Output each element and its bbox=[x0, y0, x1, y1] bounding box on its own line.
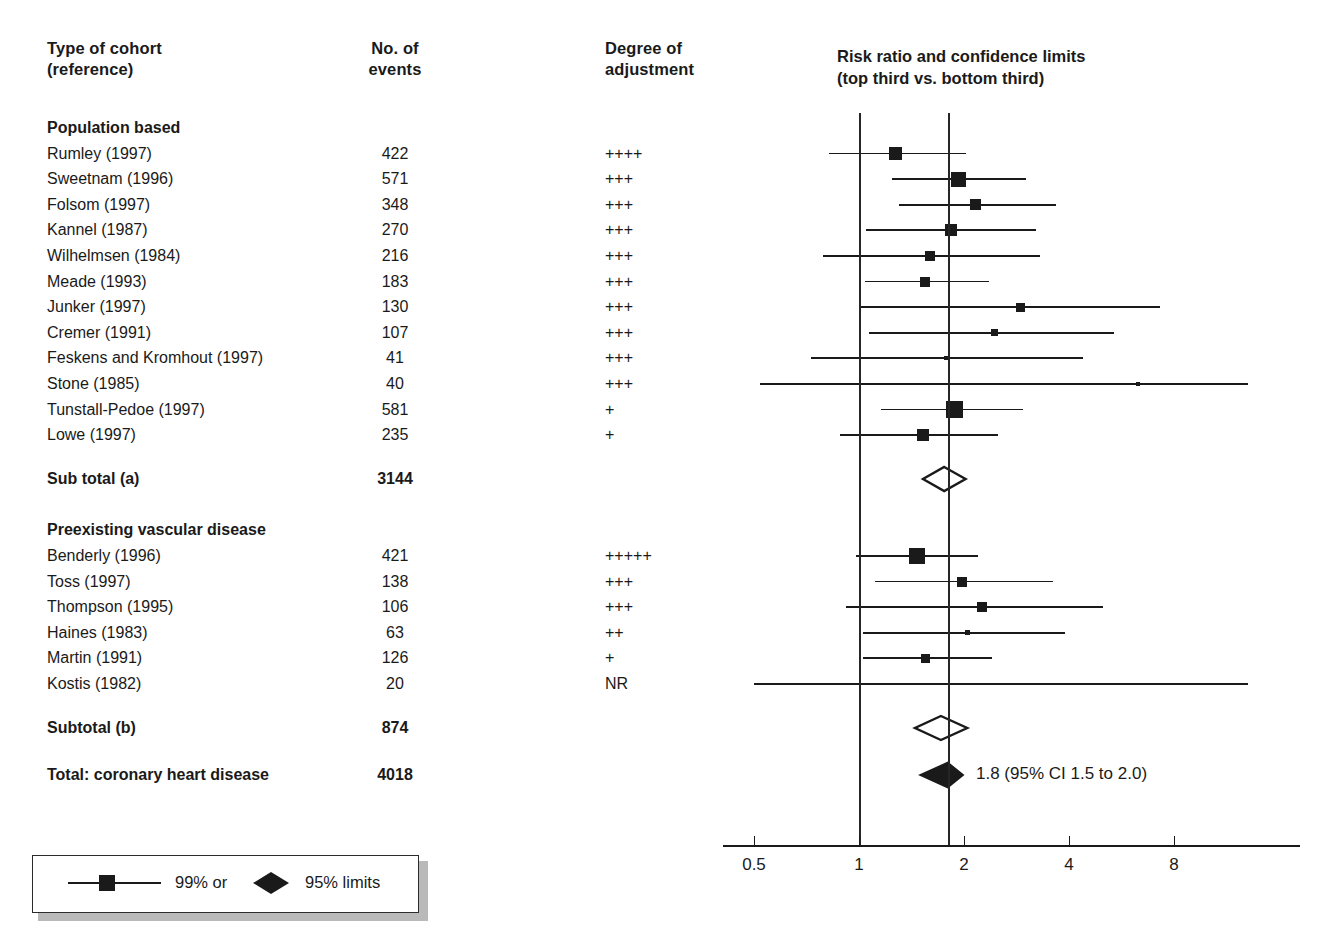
cohort-header-line2: (reference) bbox=[47, 59, 377, 80]
confidence-interval-line bbox=[846, 606, 1102, 608]
x-axis-tick bbox=[859, 836, 860, 845]
point-estimate-marker bbox=[951, 172, 966, 187]
point-estimate-marker bbox=[977, 602, 987, 612]
plot-area: Risk ratio and confidence limits (top th… bbox=[700, 0, 1317, 939]
x-axis-tick bbox=[754, 836, 755, 845]
row-events-value: 571 bbox=[330, 169, 460, 188]
confidence-interval-line bbox=[859, 306, 1160, 308]
legend-diamond-icon bbox=[251, 870, 291, 896]
row-cohort-label: Preexisting vascular disease bbox=[47, 520, 377, 539]
total-diamond bbox=[920, 762, 964, 788]
row-cohort-label: Subtotal (b) bbox=[47, 718, 377, 737]
row-cohort-label: Stone (1985) bbox=[47, 374, 377, 393]
row-cohort-label: Junker (1997) bbox=[47, 297, 377, 316]
row-events-value: 183 bbox=[330, 272, 460, 291]
row-events-value: 106 bbox=[330, 597, 460, 616]
events-header-line2: events bbox=[330, 59, 460, 80]
summary-diamond-b bbox=[914, 715, 968, 741]
row-events-value: 235 bbox=[330, 425, 460, 444]
point-estimate-marker bbox=[965, 630, 970, 635]
row-events-value: 130 bbox=[330, 297, 460, 316]
legend-box: 99% or 95% limits bbox=[32, 855, 419, 913]
row-cohort-label: Sub total (a) bbox=[47, 469, 377, 488]
row-cohort-label: Sweetnam (1996) bbox=[47, 169, 377, 188]
x-axis-tick-label: 4 bbox=[1039, 855, 1099, 875]
point-estimate-marker bbox=[921, 654, 930, 663]
confidence-interval-line bbox=[754, 683, 1248, 685]
plot-title-line1: Risk ratio and confidence limits bbox=[837, 45, 1085, 67]
x-axis-tick-label: 2 bbox=[934, 855, 994, 875]
legend-square-marker bbox=[99, 875, 115, 891]
row-events-value: 270 bbox=[330, 220, 460, 239]
plot-title-line2: (top third vs. bottom third) bbox=[837, 67, 1085, 89]
column-header-cohort: Type of cohort (reference) bbox=[47, 38, 377, 80]
point-estimate-marker bbox=[1016, 303, 1025, 312]
point-estimate-marker bbox=[920, 277, 930, 287]
total-annotation: 1.8 (95% CI 1.5 to 2.0) bbox=[976, 764, 1147, 784]
row-events-value: 40 bbox=[330, 374, 460, 393]
summary-diamond-a bbox=[922, 466, 967, 492]
row-cohort-label: Benderly (1996) bbox=[47, 546, 377, 565]
row-cohort-label: Lowe (1997) bbox=[47, 425, 377, 444]
row-cohort-label: Martin (1991) bbox=[47, 648, 377, 667]
point-estimate-marker bbox=[925, 251, 935, 261]
row-events-value: 138 bbox=[330, 572, 460, 591]
row-events-value: 126 bbox=[330, 648, 460, 667]
row-events-value: 63 bbox=[330, 623, 460, 642]
row-events-value: 421 bbox=[330, 546, 460, 565]
x-axis-tick bbox=[1069, 836, 1070, 845]
row-events-value: 422 bbox=[330, 144, 460, 163]
point-estimate-marker bbox=[957, 577, 967, 587]
row-cohort-label: Kannel (1987) bbox=[47, 220, 377, 239]
column-header-events: No. of events bbox=[330, 38, 460, 80]
row-events-value: 3144 bbox=[330, 469, 460, 488]
row-cohort-label: Population based bbox=[47, 118, 377, 137]
row-cohort-label: Wilhelmsen (1984) bbox=[47, 246, 377, 265]
x-axis-tick-label: 0.5 bbox=[724, 855, 784, 875]
x-axis-tick-label: 8 bbox=[1144, 855, 1204, 875]
row-cohort-label: Rumley (1997) bbox=[47, 144, 377, 163]
row-cohort-label: Meade (1993) bbox=[47, 272, 377, 291]
events-header-line1: No. of bbox=[330, 38, 460, 59]
row-cohort-label: Feskens and Kromhout (1997) bbox=[47, 348, 377, 367]
reference-line-null bbox=[859, 113, 861, 845]
forest-plot-figure: Type of cohort (reference) No. of events… bbox=[0, 0, 1317, 939]
row-events-value: 348 bbox=[330, 195, 460, 214]
row-events-value: 20 bbox=[330, 674, 460, 693]
row-cohort-label: Kostis (1982) bbox=[47, 674, 377, 693]
point-estimate-marker bbox=[1136, 382, 1140, 386]
row-cohort-label: Toss (1997) bbox=[47, 572, 377, 591]
row-events-value: 4018 bbox=[330, 765, 460, 784]
confidence-interval-line bbox=[760, 383, 1248, 385]
point-estimate-marker bbox=[970, 199, 981, 210]
study-table: Type of cohort (reference) No. of events… bbox=[0, 0, 720, 939]
row-cohort-label: Folsom (1997) bbox=[47, 195, 377, 214]
point-estimate-marker bbox=[909, 548, 925, 564]
legend-label-99: 99% or bbox=[175, 873, 227, 892]
row-events-value: 874 bbox=[330, 718, 460, 737]
row-cohort-label: Thompson (1995) bbox=[47, 597, 377, 616]
point-estimate-marker bbox=[945, 224, 957, 236]
x-axis-tick-label: 1 bbox=[829, 855, 889, 875]
x-axis-tick bbox=[1174, 836, 1175, 845]
row-cohort-label: Cremer (1991) bbox=[47, 323, 377, 342]
pooled-effect-line bbox=[948, 113, 950, 845]
x-axis-tick bbox=[964, 836, 965, 845]
row-cohort-label: Haines (1983) bbox=[47, 623, 377, 642]
row-cohort-label: Tunstall-Pedoe (1997) bbox=[47, 400, 377, 419]
x-axis-line bbox=[723, 845, 1300, 847]
point-estimate-marker bbox=[889, 147, 902, 160]
row-cohort-label: Total: coronary heart disease bbox=[47, 765, 377, 784]
row-events-value: 216 bbox=[330, 246, 460, 265]
row-events-value: 41 bbox=[330, 348, 460, 367]
row-events-value: 107 bbox=[330, 323, 460, 342]
point-estimate-marker bbox=[917, 429, 929, 441]
legend-label-95: 95% limits bbox=[305, 873, 380, 892]
plot-title: Risk ratio and confidence limits (top th… bbox=[837, 45, 1085, 89]
row-events-value: 581 bbox=[330, 400, 460, 419]
point-estimate-marker bbox=[991, 329, 998, 336]
cohort-header-line1: Type of cohort bbox=[47, 38, 377, 59]
